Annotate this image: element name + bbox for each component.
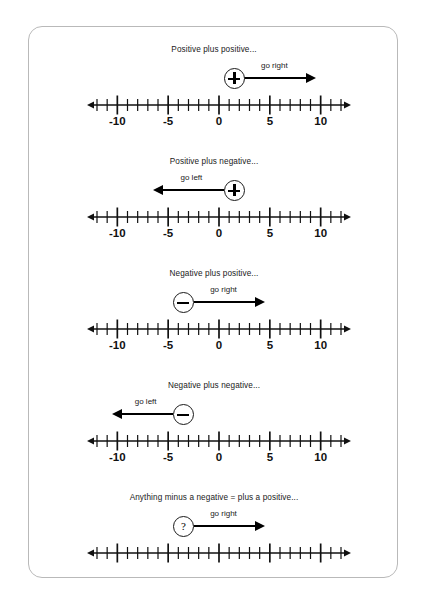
question-circle-icon: ? xyxy=(173,516,194,537)
tick-label: 10 xyxy=(314,227,327,239)
axis-arrow-left xyxy=(87,213,94,220)
direction-label: go right xyxy=(260,61,289,70)
direction-label: go left xyxy=(134,397,158,406)
number-line-labels: -10-50510 xyxy=(29,451,399,467)
tick-label: -5 xyxy=(163,339,173,351)
rule-section-anything-minus-a-negative: Anything minus a negative = plus a posit… xyxy=(29,27,399,139)
lesson-card: Positive plus positive...go right-10-505… xyxy=(28,26,398,578)
tick-label: 0 xyxy=(216,339,222,351)
tick-label: -5 xyxy=(163,227,173,239)
question-mark-glyph: ? xyxy=(174,517,193,536)
direction-label: go left xyxy=(180,173,204,182)
axis-arrow-left xyxy=(87,437,94,444)
axis-arrow-right xyxy=(344,213,351,220)
arrow-shaft xyxy=(244,77,306,79)
arrow-shaft xyxy=(162,189,224,191)
minus-circle-icon xyxy=(173,404,194,425)
section-caption: Anything minus a negative = plus a posit… xyxy=(29,493,399,502)
section-caption: Negative plus positive... xyxy=(29,269,399,278)
direction-arrow-right xyxy=(194,520,265,532)
arrow-head xyxy=(255,521,265,531)
plus-vertical-stroke xyxy=(233,72,235,84)
plus-vertical-stroke xyxy=(233,184,235,196)
number-line xyxy=(29,539,399,573)
tick-label: 0 xyxy=(216,451,222,463)
minus-stroke xyxy=(177,414,189,416)
tick-label: 5 xyxy=(267,227,273,239)
tick-label: 10 xyxy=(314,451,327,463)
axis-arrow-right xyxy=(344,549,351,556)
tick-label: 10 xyxy=(314,339,327,351)
direction-arrow-right xyxy=(244,72,315,84)
arrow-head xyxy=(306,73,316,83)
arrow-head xyxy=(112,409,122,419)
tick-label: -10 xyxy=(109,227,126,239)
axis-arrow-left xyxy=(87,549,94,556)
axis-arrow-left xyxy=(87,325,94,332)
tick-label: -10 xyxy=(109,451,126,463)
direction-label: go right xyxy=(209,285,238,294)
plus-circle-icon xyxy=(224,68,245,89)
minus-circle-icon xyxy=(173,292,194,313)
number-line-labels: -10-50510 xyxy=(29,227,399,243)
tick-label: -5 xyxy=(163,451,173,463)
axis-arrow-right xyxy=(344,325,351,332)
arrow-shaft xyxy=(194,525,256,527)
section-caption: Positive plus negative... xyxy=(29,157,399,166)
direction-label: go right xyxy=(209,509,238,518)
direction-arrow-right xyxy=(194,296,265,308)
minus-stroke xyxy=(177,302,189,304)
section-caption: Negative plus negative... xyxy=(29,381,399,390)
plus-circle-icon xyxy=(224,180,245,201)
arrow-head xyxy=(153,185,163,195)
arrow-head xyxy=(255,297,265,307)
tick-label: 5 xyxy=(267,339,273,351)
direction-arrow-left xyxy=(153,184,224,196)
axis-arrow-right xyxy=(344,437,351,444)
tick-label: -10 xyxy=(109,339,126,351)
number-line-axis xyxy=(29,539,399,567)
direction-arrow-left xyxy=(112,408,173,420)
tick-label: 5 xyxy=(267,451,273,463)
arrow-shaft xyxy=(194,301,256,303)
tick-label: 0 xyxy=(216,227,222,239)
number-line-labels: -10-50510 xyxy=(29,339,399,355)
arrow-shaft xyxy=(121,413,173,415)
